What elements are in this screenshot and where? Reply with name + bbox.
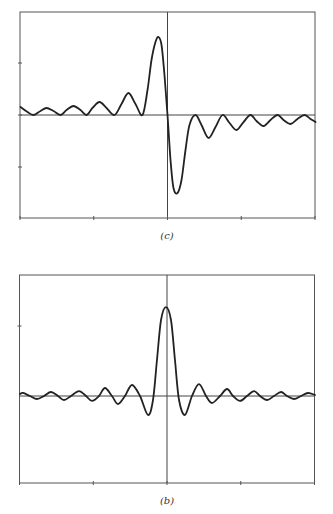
- figure-c: (c): [0, 0, 333, 250]
- data-curve-b: [20, 307, 315, 415]
- ticks-c: [18, 63, 315, 220]
- caption-b: (b): [160, 495, 174, 506]
- caption-c: (c): [160, 230, 173, 241]
- plot-frame-b: [20, 275, 315, 483]
- plot-c: [0, 0, 333, 250]
- ticks-b: [18, 326, 315, 485]
